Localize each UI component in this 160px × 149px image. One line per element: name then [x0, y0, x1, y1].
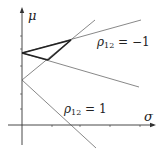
axes — [8, 7, 156, 145]
portfolio-frontier-diagram: μ σ ρ12 = −1 ρ12 = 1 — [0, 0, 160, 149]
feasible-set-triangle — [22, 40, 71, 60]
mu-label: μ — [28, 8, 36, 23]
sigma-label: σ — [144, 109, 154, 124]
rho-neg-label: ρ12 = −1 — [96, 35, 150, 50]
rho-pos-label: ρ12 = 1 — [63, 102, 107, 117]
y-axis-arrow-icon — [20, 7, 24, 13]
